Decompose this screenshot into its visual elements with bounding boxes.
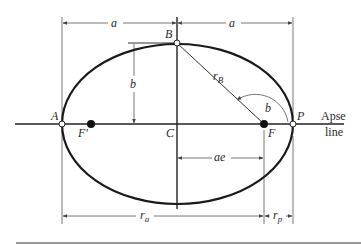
focus-F bbox=[260, 120, 268, 128]
label-C: C bbox=[166, 126, 175, 140]
label-B: B bbox=[165, 27, 173, 41]
apse-label-line1: Apse bbox=[321, 109, 346, 123]
orbit-diagram: a a B b rB b A F' C F P Apse line ae ra … bbox=[0, 0, 361, 245]
label-rp: rp bbox=[273, 208, 283, 224]
bottom-rule bbox=[16, 242, 361, 244]
label-F: F bbox=[267, 126, 276, 140]
label-ra: ra bbox=[140, 208, 150, 224]
label-rB: rB bbox=[213, 69, 224, 85]
label-P: P bbox=[296, 109, 305, 123]
label-a-left: a bbox=[111, 16, 117, 30]
label-ae: ae bbox=[214, 150, 226, 164]
label-a-right: a bbox=[229, 16, 235, 30]
focus-F-prime bbox=[87, 120, 95, 128]
label-F-prime: F' bbox=[77, 126, 88, 140]
angle-arc bbox=[237, 94, 288, 122]
point-A bbox=[59, 121, 65, 127]
apse-label-line2: line bbox=[325, 125, 343, 139]
point-P bbox=[290, 121, 296, 127]
label-angle: b bbox=[265, 101, 271, 115]
label-b: b bbox=[130, 77, 136, 91]
point-B bbox=[174, 40, 180, 46]
label-A: A bbox=[50, 109, 59, 123]
